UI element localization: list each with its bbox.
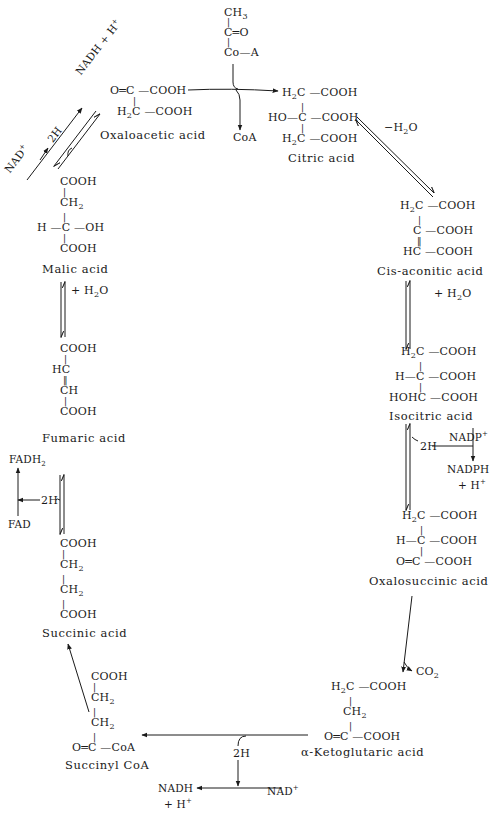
akg-row-3: O═C —COOH xyxy=(324,730,406,743)
acetyl-coa-link: Co—A xyxy=(224,46,259,59)
oxalosuccinic-acid: H2C —COOH | H—C —COOH | O═C —COOH xyxy=(396,509,477,568)
citric-row-3: C —COOH xyxy=(297,132,357,145)
superscript: + xyxy=(480,478,486,486)
two-h-right-label: 2H xyxy=(420,440,437,453)
malic-row-1: COOH xyxy=(37,175,104,188)
oxalosuccinic-row-3: O═C —COOH xyxy=(396,555,477,568)
subscript: 2 xyxy=(361,711,366,720)
succinyl-row-1: COOH xyxy=(72,670,135,683)
plus-water-left-label: + H2O xyxy=(71,284,108,301)
cis-aconitic-row-2: C —COOH xyxy=(400,224,475,237)
succinic-row-3: CH xyxy=(60,583,78,596)
text: + H xyxy=(434,287,457,300)
succinyl-coa: COOH | CH2 | CH2 | O═C —CoA xyxy=(72,670,135,754)
superscript: + xyxy=(482,430,488,438)
nad-bottom-label: NAD+ xyxy=(267,782,299,798)
isocitric-row-1: C —COOH xyxy=(416,345,476,358)
malic-acid-label: Malic acid xyxy=(42,263,108,276)
subscript: 3 xyxy=(242,12,247,21)
citric-acid: H2C —COOH | HO—C —COOH | H2C —COOH xyxy=(268,86,359,149)
citric-acid-label: Citric acid xyxy=(288,152,355,165)
atom: H xyxy=(402,509,412,522)
subscript: 2 xyxy=(78,589,83,598)
plus-water-right-label: + H2O xyxy=(434,287,471,304)
akg-row-2: CH xyxy=(343,705,361,718)
fumarase-arrow xyxy=(61,282,65,337)
condensation-arrow xyxy=(188,64,278,130)
subscript: 2 xyxy=(78,564,83,573)
atom: H xyxy=(400,199,410,212)
tca-cycle-diagram: CH3 | C═O | Co—A O═C —COOH | H2C —COOH O… xyxy=(0,0,493,820)
nadph-label: NADPH xyxy=(447,463,489,476)
text: NADP xyxy=(449,431,482,443)
nadh-bottom-proton-label: + H+ xyxy=(164,795,192,811)
subscript: 2 xyxy=(78,202,83,211)
text: O xyxy=(99,284,108,297)
succinyl-row-2: CH xyxy=(91,691,109,704)
succinyl-row-3: CH xyxy=(91,716,109,729)
succinic-row-2: CH xyxy=(60,558,78,571)
alpha-ketoglutaric-acid: H2C —COOH | CH2 | O═C —COOH xyxy=(324,680,406,743)
succinic-acid-label: Succinic acid xyxy=(42,627,127,640)
malic-acid: COOH | CH2 | H —C —OH | COOH xyxy=(37,175,104,255)
succinic-row-4: COOH xyxy=(60,608,97,621)
oxaloacetic-row-1: O═C —COOH xyxy=(110,84,192,97)
aconitase-arrow-2 xyxy=(406,281,410,349)
subscript: 2 xyxy=(41,460,46,468)
text: FADH xyxy=(9,453,41,465)
text: + H xyxy=(458,479,480,491)
text: CO xyxy=(416,665,434,678)
co2-label: CO2 xyxy=(416,665,439,682)
malic-row-4: COOH xyxy=(37,242,104,255)
nadph-proton-label: + H+ xyxy=(458,476,486,492)
acetyl-coa-structure: CH3 | C═O | Co—A xyxy=(224,6,259,59)
succinic-row-1: COOH xyxy=(60,537,97,550)
oxalosuccinic-row-1: C —COOH xyxy=(417,509,477,522)
decarboxylation-arrow xyxy=(403,596,412,672)
malic-row-3: H —C —OH xyxy=(37,221,104,234)
subscript: 2 xyxy=(434,671,439,680)
text: O xyxy=(409,121,418,134)
fadh2-label: FADH2 xyxy=(9,453,46,471)
fumaric-acid: COOH | HC ‖ CH | COOH xyxy=(60,342,97,418)
cis-aconitic-row-3: HC —COOH xyxy=(400,245,475,258)
isocitric-row-3: HOHC —COOH xyxy=(389,391,478,404)
citric-row-2: HO—C —COOH xyxy=(268,111,359,124)
succinyl-coa-label: Succinyl CoA xyxy=(65,759,149,772)
isocitric-acid: H2C —COOH | H—C —COOH | HOHC —COOH xyxy=(389,345,478,404)
text: NAD xyxy=(267,785,293,797)
oxaloacetic-acid: O═C —COOH | H2C —COOH xyxy=(110,84,192,122)
cis-aconitic-acid-label: Cis-aconitic acid xyxy=(377,265,484,278)
isocitric-row-2: H—C —COOH xyxy=(389,370,478,383)
text: O xyxy=(462,287,471,300)
atom: H xyxy=(282,132,292,145)
cis-aconitic-row-1: C —COOH xyxy=(415,199,475,212)
oxaloacetic-acid-label: Oxaloacetic acid xyxy=(100,129,206,142)
nadp-label: NADP+ xyxy=(449,428,488,444)
minus-water-label: −H2O xyxy=(384,121,418,138)
succinyl-row-4: O═C —CoA xyxy=(72,741,135,754)
oxalosuccinic-acid-label: Oxalosuccinic acid xyxy=(369,575,489,588)
isocitric-acid-label: Isocitric acid xyxy=(389,410,473,423)
fumaric-row-2: HC xyxy=(52,363,97,376)
malic-row-2: CH xyxy=(60,196,78,209)
atom: H xyxy=(401,345,411,358)
text: + H xyxy=(164,798,186,810)
oxaloacetic-row-2: C —COOH xyxy=(132,105,192,118)
text: + H xyxy=(71,284,94,297)
superscript: + xyxy=(186,797,192,805)
two-h-bottom-label: 2H xyxy=(233,747,250,760)
succinic-acid: COOH | CH2 | CH2 | COOH xyxy=(60,537,97,621)
text: −H xyxy=(384,121,403,134)
fumaric-acid-label: Fumaric acid xyxy=(42,432,126,445)
atom: H xyxy=(117,105,127,118)
atom: H xyxy=(331,680,341,693)
subscript: 2 xyxy=(109,697,114,706)
citric-row-1: C —COOH xyxy=(297,86,357,99)
oxalosuccinic-row-2: H—C —COOH xyxy=(396,534,477,547)
nadh-bottom-label: NADH xyxy=(158,782,193,795)
superscript: + xyxy=(293,784,299,792)
akg-row-1: C —COOH xyxy=(346,680,406,693)
coa-release-label: CoA xyxy=(233,131,257,144)
malate-dehydrogenase-arrow xyxy=(27,108,100,180)
